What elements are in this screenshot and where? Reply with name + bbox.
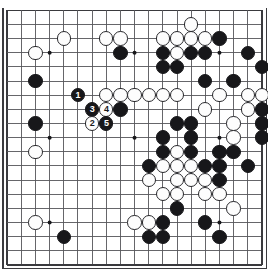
stone-white: [212, 88, 226, 102]
stone-white: [28, 145, 42, 159]
stone-black: [170, 116, 184, 130]
move-stone-2: 2: [85, 116, 99, 130]
move-stone-5: 5: [99, 116, 113, 130]
stone-black: [255, 102, 268, 116]
stone-black: [241, 159, 255, 173]
stone-black: [113, 102, 127, 116]
stone-black: [212, 145, 226, 159]
stone-black: [255, 130, 268, 144]
stone-white: [184, 31, 198, 45]
stone-black: [226, 74, 240, 88]
stone-black: [28, 74, 42, 88]
stone-white: [184, 17, 198, 31]
stone-white: [170, 88, 184, 102]
stone-white: [226, 201, 240, 215]
stone-white: [241, 102, 255, 116]
move-stone-3: 3: [85, 102, 99, 116]
stone-black: [226, 145, 240, 159]
move-number-label: 3: [86, 103, 98, 115]
stone-black: [212, 159, 226, 173]
stone-white: [156, 31, 170, 45]
stone-black: [241, 46, 255, 60]
stone-black: [255, 116, 268, 130]
stone-white: [99, 88, 113, 102]
stone-black: [212, 230, 226, 244]
stone-white: [156, 88, 170, 102]
stone-black: [57, 230, 71, 244]
stone-black: [156, 130, 170, 144]
stone-black: [142, 159, 156, 173]
stone-white: [156, 159, 170, 173]
stone-white: [170, 173, 184, 187]
stone-white: [184, 173, 198, 187]
stone-black: [170, 60, 184, 74]
stone-white: [156, 187, 170, 201]
stone-black: [156, 46, 170, 60]
stone-white: [142, 88, 156, 102]
stone-white: [198, 31, 212, 45]
stone-black: [156, 60, 170, 74]
stone-black: [28, 116, 42, 130]
move-number-label: 4: [100, 103, 112, 115]
stone-white: [184, 159, 198, 173]
stone-white: [57, 31, 71, 45]
stone-white: [127, 215, 141, 229]
stone-white: [170, 145, 184, 159]
stone-black: [212, 173, 226, 187]
stone-white: [28, 46, 42, 60]
stone-white: [198, 102, 212, 116]
stone-white: [113, 31, 127, 45]
stone-white: [142, 173, 156, 187]
stone-black: [198, 74, 212, 88]
stone-white: [142, 215, 156, 229]
move-stone-4: 4: [99, 102, 113, 116]
stone-white: [28, 215, 42, 229]
stone-white: [241, 88, 255, 102]
stone-white: [170, 46, 184, 60]
stone-white: [170, 31, 184, 45]
stone-black: [198, 159, 212, 173]
stone-black: [184, 130, 198, 144]
stone-black: [170, 201, 184, 215]
stone-black: [184, 145, 198, 159]
stone-white: [99, 31, 113, 45]
stone-black: [198, 46, 212, 60]
stone-black: [184, 46, 198, 60]
stone-black: [198, 215, 212, 229]
stone-white: [170, 187, 184, 201]
stone-white: [198, 173, 212, 187]
stone-black: [156, 230, 170, 244]
stone-black: [184, 116, 198, 130]
stone-white: [170, 159, 184, 173]
stone-white: [212, 187, 226, 201]
move-number-label: 5: [100, 117, 112, 129]
go-diagram: 13425: [0, 0, 268, 279]
stone-black: [212, 31, 226, 45]
stone-white: [113, 88, 127, 102]
move-number-label: 1: [72, 89, 84, 101]
move-stone-1: 1: [71, 88, 85, 102]
stone-black: [156, 215, 170, 229]
stone-white: [198, 187, 212, 201]
move-number-label: 2: [86, 117, 98, 129]
stone-white: [127, 88, 141, 102]
page-margin-bottom: [0, 269, 268, 279]
page-margin-top: [0, 0, 268, 8]
stone-layer: 13425: [0, 0, 268, 279]
stone-white: [226, 116, 240, 130]
stone-black: [142, 230, 156, 244]
stone-black: [156, 145, 170, 159]
stone-white: [255, 88, 268, 102]
stone-white: [226, 130, 240, 144]
stone-black: [255, 60, 268, 74]
stone-black: [113, 46, 127, 60]
